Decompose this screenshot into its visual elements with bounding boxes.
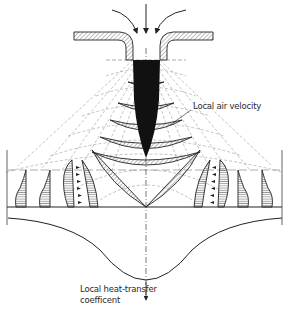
inflow-arrows xyxy=(112,4,186,33)
nozzle-plate-left xyxy=(74,32,133,60)
air-velocity-leader xyxy=(170,110,191,125)
nozzle-plate-right xyxy=(160,32,213,60)
heat-transfer-curve xyxy=(8,218,282,280)
air-velocity-label: Local air velocity xyxy=(193,101,261,112)
heat-transfer-label: Local heat-transfer coefficent xyxy=(80,284,157,306)
heat-transfer-label-line1: Local heat-transfer xyxy=(80,284,157,295)
velocity-profiles xyxy=(16,160,273,207)
jet-impingement-diagram xyxy=(0,0,288,310)
heat-transfer-label-line2: coefficent xyxy=(80,295,157,306)
